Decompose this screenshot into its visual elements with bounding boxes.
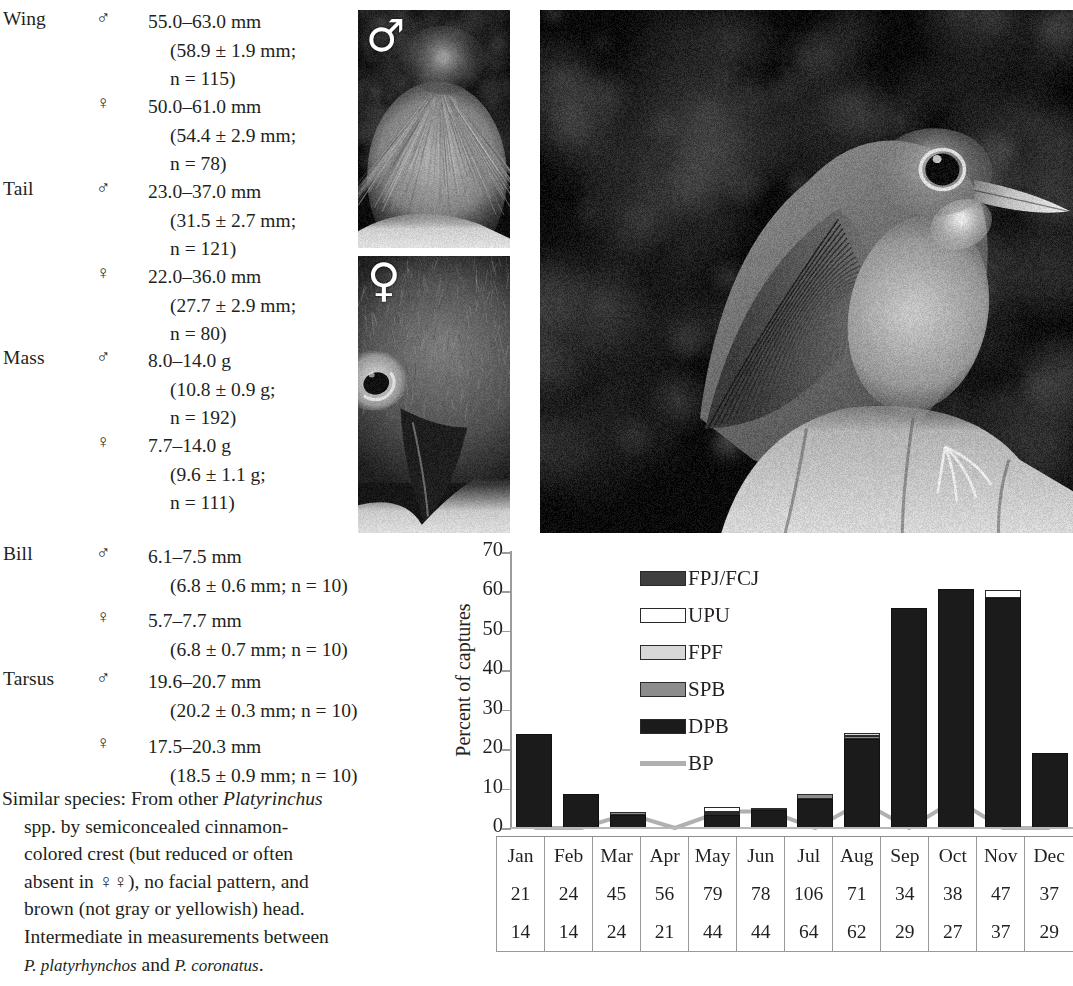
- y-tick-label: 70: [455, 538, 503, 561]
- measurement-value-line: 6.1–7.5 mm: [148, 543, 348, 572]
- table-cell-individuals: 14: [497, 913, 545, 952]
- measurement-value-line: 8.0–14.0 g: [148, 347, 276, 376]
- bar-segment-spb: [844, 736, 880, 739]
- legend-label: BP: [688, 751, 714, 776]
- measurement-value-line: (20.2 ± 0.3 mm; n = 10): [148, 697, 357, 726]
- legend-item-fpf: FPF: [640, 634, 800, 671]
- bar-segment-dpb: [985, 598, 1021, 828]
- legend-swatch: [640, 608, 686, 623]
- measurement-values: 50.0–61.0 mm(54.4 ± 2.9 mm;n = 78): [148, 93, 296, 179]
- table-cell-individuals: 27: [929, 913, 977, 952]
- measurement-value-line: 19.6–20.7 mm: [148, 668, 357, 697]
- legend-swatch: [640, 645, 686, 660]
- table-cell-months: Mar: [593, 837, 641, 875]
- y-tick-mark: [502, 749, 511, 751]
- measurement-value-line: 7.7–14.0 g: [148, 432, 266, 461]
- bar-segment-spb: [704, 813, 740, 815]
- table-cell-individuals: 24: [593, 913, 641, 952]
- table-cell-months: Sep: [881, 837, 929, 875]
- y-tick-label: 10: [455, 775, 503, 798]
- table-row: 141424214444646229273729: [497, 913, 1073, 952]
- monthly-capture-table-grid: JanFebMarAprMayJunJulAugSepOctNovDec2124…: [496, 837, 1073, 952]
- legend-label: FPJ/FCJ: [688, 566, 759, 591]
- legend-label: UPU: [688, 603, 730, 628]
- table-cell-captures: 45: [593, 875, 641, 913]
- similar-species-line-7: P. platyrhynchos and P. coronatus.: [2, 951, 422, 980]
- measurement-value-line: n = 111): [148, 489, 266, 518]
- measurement-values: 6.1–7.5 mm(6.8 ± 0.6 mm; n = 10): [148, 543, 348, 600]
- measurement-values: 23.0–37.0 mm(31.5 ± 2.7 mm;n = 121): [148, 178, 296, 264]
- measurement-values: 7.7–14.0 g(9.6 ± 1.1 g;n = 111): [148, 432, 266, 518]
- y-tick-mark: [502, 828, 511, 830]
- table-cell-months: Dec: [1025, 837, 1073, 875]
- male-sex-symbol: ♂: [96, 667, 110, 689]
- legend-label: SPB: [688, 677, 725, 702]
- female-sex-symbol: ♀: [96, 92, 110, 114]
- measurement-values: 55.0–63.0 mm(58.9 ± 1.9 mm;n = 115): [148, 8, 296, 94]
- female-sex-symbol: ♀: [96, 431, 110, 453]
- measurement-value-line: (54.4 ± 2.9 mm;: [148, 122, 296, 151]
- measurement-values: 5.7–7.7 mm(6.8 ± 0.7 mm; n = 10): [148, 607, 348, 664]
- bar-segment-upu: [985, 590, 1021, 598]
- measurement-value-line: n = 115): [148, 65, 296, 94]
- measurement-value-line: (10.8 ± 0.9 g;: [148, 376, 276, 405]
- male-sex-symbol: ♂: [96, 177, 110, 199]
- legend-item-dpb: DPB: [640, 708, 800, 745]
- measurement-value-line: n = 80): [148, 320, 296, 349]
- y-tick-mark: [502, 710, 511, 712]
- bar-segment-dpb: [844, 739, 880, 828]
- measurement-value-line: (6.8 ± 0.7 mm; n = 10): [148, 636, 348, 665]
- table-cell-months: Apr: [641, 837, 689, 875]
- measurement-values: 19.6–20.7 mm(20.2 ± 0.3 mm; n = 10): [148, 668, 357, 725]
- legend-swatch: [640, 719, 686, 734]
- table-cell-months: Nov: [977, 837, 1025, 875]
- measurement-value-line: 23.0–37.0 mm: [148, 178, 296, 207]
- similar-species-line-2: spp. by semiconcealed cinnamon-: [2, 813, 422, 841]
- legend-swatch: [640, 682, 686, 697]
- measurement-values: 22.0–36.0 mm(27.7 ± 2.9 mm;n = 80): [148, 263, 296, 349]
- male-sex-symbol: ♂: [96, 542, 110, 564]
- table-cell-individuals: 44: [737, 913, 785, 952]
- table-cell-captures: 24: [545, 875, 593, 913]
- male-sex-symbol: ♂: [96, 346, 110, 368]
- bar-segment-dpb: [797, 799, 833, 828]
- similar-species-lead: Similar species: From other: [2, 788, 223, 809]
- y-tick-mark: [502, 670, 511, 672]
- y-tick-mark: [502, 552, 511, 554]
- female-sex-symbol: ♀: [96, 262, 110, 284]
- male-sex-symbol: ♂: [96, 7, 110, 29]
- bar-segment-upu: [704, 807, 740, 812]
- table-cell-individuals: 37: [977, 913, 1025, 952]
- photo-main-bird: [540, 10, 1073, 533]
- measurement-value-line: 17.5–20.3 mm: [148, 733, 357, 762]
- legend-item-fpj-fcj: FPJ/FCJ: [640, 560, 800, 597]
- table-cell-captures: 21: [497, 875, 545, 913]
- bar-segment-fpf: [844, 733, 880, 736]
- measurement-values: 8.0–14.0 g(10.8 ± 0.9 g;n = 192): [148, 347, 276, 433]
- female-sex-symbol: ♀: [96, 606, 110, 628]
- table-cell-captures: 47: [977, 875, 1025, 913]
- table-cell-captures: 71: [833, 875, 881, 913]
- measurement-value-line: n = 192): [148, 404, 276, 433]
- table-cell-individuals: 29: [1025, 913, 1073, 952]
- measurement-label-wing: Wing: [3, 8, 46, 30]
- species-name-coronatus: P. coronatus: [175, 956, 259, 975]
- table-cell-individuals: 29: [881, 913, 929, 952]
- y-tick-mark: [502, 631, 511, 633]
- table-cell-months: Oct: [929, 837, 977, 875]
- male-sex-symbol: ♂: [366, 14, 405, 58]
- table-row: 2124455679781067134384737: [497, 875, 1073, 913]
- species-period: .: [259, 954, 264, 975]
- measurement-values: 17.5–20.3 mm(18.5 ± 0.9 mm; n = 10): [148, 733, 357, 790]
- y-tick-mark: [502, 591, 511, 593]
- table-cell-captures: 37: [1025, 875, 1073, 913]
- measurement-value-line: (6.8 ± 0.6 mm; n = 10): [148, 572, 348, 601]
- measurement-label-tail: Tail: [3, 178, 33, 200]
- bar-segment-dpb: [891, 608, 927, 828]
- measurement-value-line: n = 78): [148, 150, 296, 179]
- table-cell-captures: 79: [689, 875, 737, 913]
- table-cell-captures: 106: [785, 875, 833, 913]
- similar-species-line-3: colored crest (but reduced or often: [2, 840, 422, 868]
- measurement-value-line: (27.7 ± 2.9 mm;: [148, 292, 296, 321]
- table-cell-captures: 38: [929, 875, 977, 913]
